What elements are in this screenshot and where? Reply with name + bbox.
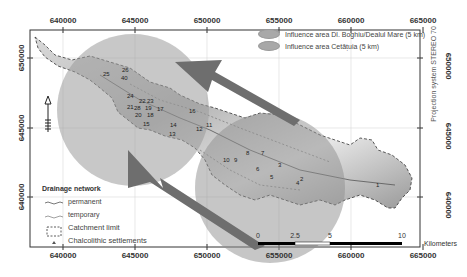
settlement-label: 24 [127, 93, 134, 99]
ellipse-swatch-icon [258, 29, 280, 39]
legend-item: Catchment limit [42, 221, 147, 234]
legend-label: Catchment limit [68, 223, 120, 232]
y-tick-label: 640000 [17, 184, 26, 211]
x-tick-label: 655000 [266, 16, 293, 25]
scale-bar [258, 242, 402, 245]
settlement-label: 8 [246, 150, 249, 156]
settlement-label: 12 [196, 126, 203, 132]
legend-item: temporary [42, 208, 147, 221]
settlement-label: 21 [127, 104, 134, 110]
settlement-label: 23 [147, 98, 154, 104]
x-tick-label: 650000 [194, 16, 221, 25]
settlement-label: 40 [121, 75, 128, 81]
settlement-label: 4 [296, 180, 299, 186]
settlement-label: 17 [157, 106, 164, 112]
x-tick-label: 650000 [194, 251, 221, 260]
legend-influence: Influence area Dl. Boghiu/Dealul Mare (5… [258, 28, 425, 52]
settlement-label: 25 [103, 71, 110, 77]
y-tick-label: 640000 [444, 192, 453, 219]
scale-label: 5 [328, 232, 332, 239]
settlement-label: 9 [234, 157, 237, 163]
x-tick-label: 645000 [122, 251, 149, 260]
settlement-label: 11 [206, 122, 212, 128]
influence-circle-cetatuia [195, 113, 345, 263]
x-tick-label: 645000 [122, 16, 149, 25]
settlement-label: 26 [122, 67, 129, 73]
legend-title: Drainage network [42, 185, 147, 192]
settlement-label: 1 [376, 182, 379, 188]
settlement-label: 15 [143, 121, 150, 127]
settlement-label: 20 [135, 112, 142, 118]
legend-label: permanent [68, 198, 101, 205]
settlement-label: 18 [147, 112, 154, 118]
x-tick-label: 660000 [338, 16, 365, 25]
legend-label: Chalcolithic settlements [68, 236, 147, 245]
x-tick-label: 660000 [338, 251, 365, 260]
scale-label: 2.5 [290, 232, 300, 239]
legend-label: Influence area Cetățuia (5 km) [285, 43, 379, 50]
settlement-label: 7 [261, 150, 264, 156]
y-tick-label: 650000 [444, 53, 453, 80]
x-tick-label: 640000 [50, 251, 77, 260]
scale-unit: Kilometers [424, 240, 457, 247]
settlement-label: 10 [223, 157, 230, 163]
x-tick-label: 640000 [50, 16, 77, 25]
ellipse-swatch-icon [258, 41, 280, 51]
x-tick-label: 665000 [410, 251, 437, 260]
legend-item: Influence area Dl. Boghiu/Dealul Mare (5… [258, 28, 425, 40]
legend-item: Influence area Cetățuia (5 km) [258, 40, 425, 52]
y-tick-label: 645000 [17, 115, 26, 142]
settlement-label: 28 [134, 105, 141, 111]
settlement-label: 5 [270, 174, 273, 180]
legend-item: Chalcolithic settlements [42, 234, 147, 247]
legend-network: Drainage network permanent temporary Cat… [42, 185, 147, 247]
settlement-label: 6 [256, 166, 259, 172]
settlement-label: 13 [169, 131, 176, 137]
settlement-label: 16 [189, 108, 196, 114]
x-tick-label: 665000 [410, 16, 437, 25]
legend-label: temporary [68, 211, 100, 218]
legend-item: permanent [42, 195, 147, 208]
settlement-label: 22 [139, 98, 146, 104]
settlement-label: 19 [145, 105, 152, 111]
y-tick-label: 650000 [17, 45, 26, 72]
y-tick-label: 645000 [444, 123, 453, 150]
x-tick-label: 655000 [266, 251, 293, 260]
settlement-label: 3 [278, 162, 281, 168]
legend-label: Influence area Dl. Boghiu/Dealul Mare (5… [285, 31, 425, 38]
scale-label: 10 [398, 232, 406, 239]
projection-label: Projection system STEREO 70 [430, 26, 437, 122]
settlement-label: 2 [300, 176, 303, 182]
scale-label: 0 [256, 232, 260, 239]
settlement-label: 14 [170, 122, 177, 128]
